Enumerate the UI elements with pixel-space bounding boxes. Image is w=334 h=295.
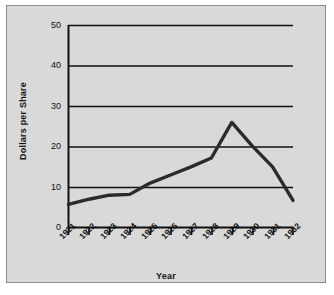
y-tick-label-10: 10 bbox=[35, 182, 61, 192]
x-axis-title: Year bbox=[7, 271, 325, 281]
line-chart: Dollars per Share Year 50 40 30 20 10 0 … bbox=[7, 6, 325, 282]
gridlines bbox=[68, 26, 293, 188]
y-axis-title: Dollars per Share bbox=[18, 61, 28, 181]
chart-figure-frame: Dollars per Share Year 50 40 30 20 10 0 … bbox=[6, 5, 326, 283]
y-tick-label-40: 40 bbox=[35, 60, 61, 70]
y-tick-label-50: 50 bbox=[35, 20, 61, 30]
y-tick-label-20: 20 bbox=[35, 141, 61, 151]
y-tick-label-30: 30 bbox=[35, 101, 61, 111]
data-series-line bbox=[69, 122, 294, 204]
y-tick-label-0: 0 bbox=[35, 222, 61, 232]
